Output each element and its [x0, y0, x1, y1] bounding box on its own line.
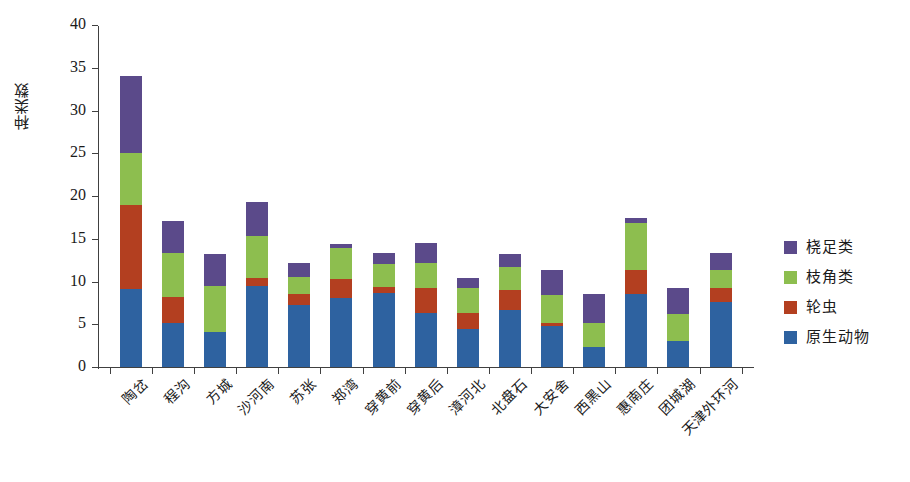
- y-tick-label: 0: [78, 356, 86, 376]
- y-tick: 15: [92, 239, 98, 240]
- x-axis-label-text: 郑湾: [330, 376, 362, 408]
- y-tick-mark: [92, 25, 98, 26]
- bar-segment-桡足类: [499, 254, 521, 267]
- y-tick: 5: [92, 324, 98, 325]
- legend-item-label: 桡足类: [806, 239, 854, 256]
- x-axis-label-text: 方城: [204, 376, 236, 408]
- x-axis-label-text: 穿黄后: [404, 376, 446, 418]
- legend-item-label: 轮虫: [806, 299, 838, 316]
- bar-segment-枝角类: [499, 267, 521, 290]
- bar-沙河南[interactable]: [246, 202, 268, 367]
- bar-segment-枝角类: [330, 248, 352, 279]
- bar-segment-轮虫: [373, 287, 395, 294]
- y-tick-label: 35: [70, 57, 86, 77]
- bar-segment-枝角类: [583, 323, 605, 348]
- legend-item-轮虫[interactable]: 轮虫: [784, 292, 904, 322]
- bar-segment-枝角类: [373, 264, 395, 286]
- y-tick: 25: [92, 153, 98, 154]
- bar-segment-枝角类: [246, 236, 268, 278]
- x-axis-label-text: 惠南庄: [615, 376, 657, 418]
- stacked-bar-chart: 种类数 0510152025303540 陶岔程沟方城沙河南苏张郑湾穿黄前穿黄后…: [0, 0, 910, 482]
- bar-segment-枝角类: [120, 153, 142, 204]
- legend-item-桡足类[interactable]: 桡足类: [784, 232, 904, 262]
- legend-swatch-icon: [784, 331, 797, 344]
- bar-segment-原生动物: [373, 293, 395, 367]
- bar-segment-轮虫: [162, 297, 184, 323]
- y-tick-mark: [92, 239, 98, 240]
- bar-segment-枝角类: [710, 270, 732, 287]
- y-tick: 20: [92, 196, 98, 197]
- bar-segment-枝角类: [625, 223, 647, 270]
- legend-item-label: 枝角类: [806, 269, 854, 286]
- bar-segment-桡足类: [246, 202, 268, 236]
- bar-segment-桡足类: [373, 253, 395, 264]
- legend-swatch-icon: [784, 241, 797, 254]
- bar-segment-轮虫: [710, 288, 732, 303]
- bar-segment-枝角类: [288, 277, 310, 294]
- x-axis-label-text: 漳河北: [446, 376, 488, 418]
- legend-swatch-icon: [784, 301, 797, 314]
- bar-segment-桡足类: [583, 294, 605, 322]
- bar-惠南庄[interactable]: [625, 218, 647, 367]
- bar-segment-桡足类: [204, 254, 226, 286]
- bar-segment-桡足类: [162, 221, 184, 253]
- x-axis-label-text: 北盘石: [489, 376, 531, 418]
- x-axis-label-text: 穿黄前: [362, 376, 404, 418]
- bar-segment-轮虫: [415, 288, 437, 314]
- bar-郑湾[interactable]: [330, 244, 352, 367]
- bar-segment-原生动物: [330, 298, 352, 367]
- y-tick-mark: [92, 68, 98, 69]
- bar-segment-枝角类: [457, 288, 479, 314]
- bar-segment-轮虫: [625, 270, 647, 295]
- x-axis-label-text: 西黑山: [573, 376, 615, 418]
- legend-item-枝角类[interactable]: 枝角类: [784, 262, 904, 292]
- legend-item-原生动物[interactable]: 原生动物: [784, 322, 904, 352]
- y-tick: 0: [92, 367, 98, 368]
- bar-方城[interactable]: [204, 254, 226, 367]
- bar-segment-轮虫: [457, 313, 479, 329]
- y-tick-label: 15: [70, 228, 86, 248]
- x-axis-label-text: 程沟: [162, 376, 194, 408]
- bar-segment-枝角类: [162, 253, 184, 297]
- y-tick-mark: [92, 282, 98, 283]
- y-tick-mark: [92, 367, 98, 368]
- y-tick-label: 10: [70, 271, 86, 291]
- bar-segment-轮虫: [246, 278, 268, 286]
- bar-segment-桡足类: [415, 243, 437, 263]
- y-tick-mark: [92, 324, 98, 325]
- y-tick-mark: [92, 153, 98, 154]
- bar-segment-轮虫: [499, 290, 521, 310]
- y-tick-mark: [92, 111, 98, 112]
- bar-segment-桡足类: [457, 278, 479, 287]
- y-tick: 35: [92, 68, 98, 69]
- bar-segment-轮虫: [120, 205, 142, 290]
- chart-legend: 桡足类枝角类轮虫原生动物: [784, 232, 904, 352]
- bar-陶岔[interactable]: [120, 76, 142, 367]
- bar-segment-枝角类: [204, 286, 226, 332]
- y-tick: 40: [92, 25, 98, 26]
- x-axis-label-text: 沙河南: [236, 376, 278, 418]
- x-axis-labels: 陶岔程沟方城沙河南苏张郑湾穿黄前穿黄后漳河北北盘石大安舍西黑山惠南庄团城湖天津外…: [98, 369, 778, 479]
- bar-segment-轮虫: [330, 279, 352, 298]
- bar-segment-枝角类: [667, 314, 689, 341]
- plot-area: 0510152025303540: [98, 26, 753, 368]
- bar-segment-桡足类: [288, 263, 310, 278]
- y-tick-label: 20: [70, 185, 86, 205]
- bar-segment-桡足类: [667, 288, 689, 315]
- bar-segment-轮虫: [288, 294, 310, 304]
- y-tick-label: 5: [78, 313, 86, 333]
- bar-segment-桡足类: [541, 270, 563, 296]
- y-tick: 10: [92, 282, 98, 283]
- legend-swatch-icon: [784, 271, 797, 284]
- y-tick: 30: [92, 111, 98, 112]
- y-tick-mark: [92, 196, 98, 197]
- bar-穿黄前[interactable]: [373, 253, 395, 367]
- y-tick-label: 25: [70, 142, 86, 162]
- bar-segment-枝角类: [415, 263, 437, 288]
- bar-segment-原生动物: [246, 286, 268, 367]
- bar-程沟[interactable]: [162, 221, 184, 367]
- x-axis-label-text: 大安舍: [531, 376, 573, 418]
- y-tick-label: 40: [70, 14, 86, 34]
- bar-segment-桡足类: [120, 76, 142, 153]
- bar-segment-枝角类: [541, 295, 563, 323]
